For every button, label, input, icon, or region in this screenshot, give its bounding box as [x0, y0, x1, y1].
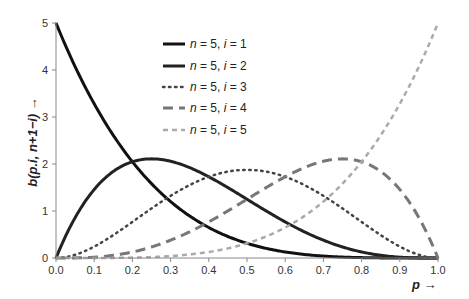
x-tick-label: 0.1	[87, 264, 102, 276]
y-tick-label: 1	[42, 205, 48, 217]
y-tick-label: 0	[42, 252, 48, 264]
x-tick-label: 0.5	[239, 264, 254, 276]
y-ticks: 012345	[42, 17, 56, 264]
x-tick-label: 0.6	[278, 264, 293, 276]
x-tick-label: 0.8	[354, 264, 369, 276]
x-tick-label: 0.3	[163, 264, 178, 276]
x-tick-label: 0.4	[201, 264, 216, 276]
legend-item: n = 5, i = 4	[163, 101, 247, 115]
y-tick-label: 3	[42, 111, 48, 123]
curve-i-1	[56, 23, 438, 258]
y-axis-label: b(p.i, n+1−i) →	[25, 97, 40, 187]
legend-label: n = 5, i = 2	[190, 59, 247, 73]
x-tick-label: 0.7	[316, 264, 331, 276]
x-ticks: 0.00.10.20.30.40.50.60.70.80.91.0	[48, 258, 445, 276]
legend: n = 5, i = 1n = 5, i = 2n = 5, i = 3n = …	[163, 37, 247, 137]
chart: 012345 0.00.10.20.30.40.50.60.70.80.91.0…	[0, 0, 469, 299]
legend-item: n = 5, i = 5	[163, 123, 247, 137]
legend-item: n = 5, i = 2	[163, 59, 247, 73]
legend-label: n = 5, i = 1	[190, 37, 247, 51]
y-tick-label: 4	[42, 64, 48, 76]
legend-label: n = 5, i = 4	[190, 101, 247, 115]
legend-item: n = 5, i = 3	[163, 80, 247, 94]
legend-label: n = 5, i = 5	[190, 123, 247, 137]
curve-i-5	[56, 23, 438, 258]
x-tick-label: 0.2	[125, 264, 140, 276]
y-tick-label: 5	[42, 17, 48, 29]
curves	[56, 23, 438, 258]
x-tick-label: 0.9	[392, 264, 407, 276]
x-tick-label: 1.0	[430, 264, 445, 276]
x-tick-label: 0.0	[48, 264, 63, 276]
legend-label: n = 5, i = 3	[190, 80, 247, 94]
y-tick-label: 2	[42, 158, 48, 170]
legend-item: n = 5, i = 1	[163, 37, 247, 51]
x-axis-label: p →	[411, 277, 437, 292]
